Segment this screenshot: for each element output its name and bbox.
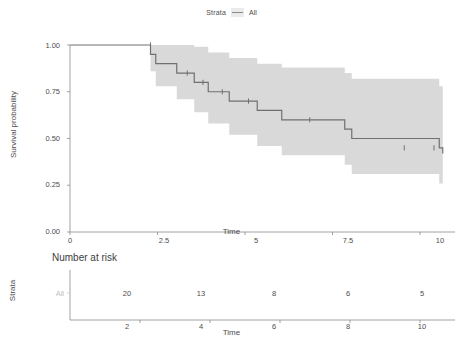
x-tick-label: 0 bbox=[55, 236, 85, 245]
legend-item-all: All bbox=[249, 9, 257, 16]
y-tick-label: 1.00 bbox=[26, 41, 60, 50]
x-tick-label: 7.5 bbox=[333, 236, 363, 245]
risk-count: 13 bbox=[189, 289, 213, 298]
x-tick-label: 10 bbox=[425, 236, 455, 245]
risk-table-svg bbox=[0, 252, 463, 361]
y-tick-label: 0.00 bbox=[26, 227, 60, 236]
risk-count: 8 bbox=[262, 289, 286, 298]
risk-x-axis-title: Time bbox=[0, 328, 463, 337]
survival-plot-svg bbox=[0, 24, 463, 240]
risk-strata-axis-title: Strata bbox=[8, 261, 17, 321]
risk-table-panel: Number at risk Strata All 20 13 8 6 5 2 … bbox=[0, 252, 463, 361]
y-tick-label: 0.25 bbox=[26, 180, 60, 189]
x-tick-label: 2.5 bbox=[149, 236, 179, 245]
y-tick-label: 0.50 bbox=[26, 134, 60, 143]
risk-row-label-all: All bbox=[42, 289, 64, 298]
legend: Strata All bbox=[0, 8, 463, 17]
x-axis-title: Time bbox=[0, 227, 463, 236]
x-tick-label: 5 bbox=[241, 236, 271, 245]
confidence-band bbox=[151, 45, 443, 202]
risk-count: 6 bbox=[336, 289, 360, 298]
survival-plot-panel: Survival probability Time 1.00 0.75 0.50… bbox=[0, 24, 463, 240]
km-plot-root: Strata All Survival probability Time 1.0… bbox=[0, 0, 463, 361]
y-axis-title: Survival probability bbox=[9, 65, 18, 185]
y-tick-marks bbox=[67, 45, 70, 232]
legend-title: Strata bbox=[206, 9, 226, 16]
risk-count: 5 bbox=[410, 289, 434, 298]
y-tick-label: 0.75 bbox=[26, 87, 60, 96]
risk-count: 20 bbox=[115, 289, 139, 298]
line-swatch-icon bbox=[231, 8, 244, 17]
